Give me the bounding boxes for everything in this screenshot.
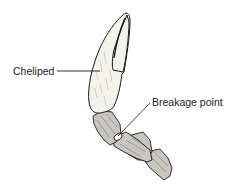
- label-cheliped: Cheliped: [13, 65, 55, 77]
- label-breakage-point: Breakage point: [152, 96, 223, 108]
- leader-line-breakage-point: [118, 103, 150, 136]
- claw: [89, 13, 130, 113]
- cheliped-diagram: Cheliped Breakage point: [0, 0, 230, 194]
